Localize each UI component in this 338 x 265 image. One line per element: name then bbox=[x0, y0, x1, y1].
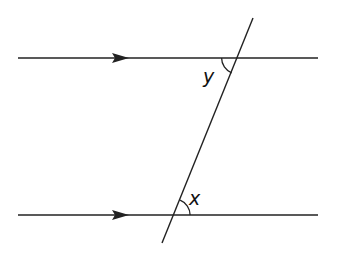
angle-y-arc bbox=[222, 58, 232, 73]
angle-y-label: y bbox=[202, 65, 215, 87]
transversal-line bbox=[162, 18, 253, 243]
parallel-lines-diagram: y x bbox=[0, 0, 338, 265]
angle-x-label: x bbox=[188, 187, 201, 209]
